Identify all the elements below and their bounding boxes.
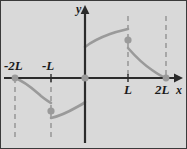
graph-figure: -2L -L L 2L x y (0, 0, 187, 149)
marker-origin (81, 74, 88, 81)
tick-label-L: L (124, 83, 132, 96)
x-axis-label: x (176, 84, 182, 96)
tick-label-neg-L: -L (42, 59, 54, 72)
marker-neg2L-origin (12, 75, 19, 82)
marker-L-jump (124, 36, 131, 43)
marker-2L-origin (163, 75, 170, 82)
plot-canvas (0, 0, 187, 149)
tick-label-neg-2L: -2L (4, 59, 23, 72)
y-axis-label: y (76, 3, 81, 15)
tick-label-2L: 2L (155, 83, 169, 96)
marker-negL-jump (47, 107, 54, 114)
